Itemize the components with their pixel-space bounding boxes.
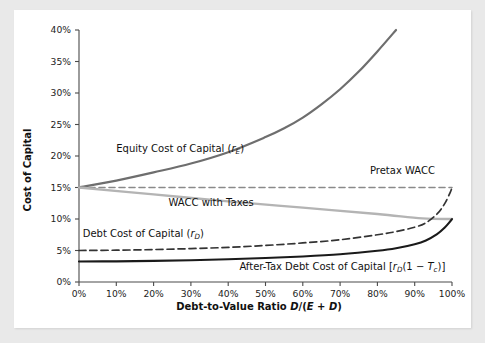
y-tick-label: 0%: [56, 276, 71, 287]
series-label-debt-cost: Debt Cost of Capital (rD): [83, 228, 204, 241]
x-axis-title-text: Debt-to-Value Ratio: [176, 301, 290, 312]
y-tick-label: 15%: [51, 182, 72, 193]
y-tick-label: 10%: [51, 213, 72, 224]
x-tick-label: 80%: [367, 288, 388, 299]
aftertax-label-close: )]: [438, 261, 446, 272]
x-tick-label: 20%: [143, 288, 164, 299]
x-axis-ticks: [79, 282, 452, 286]
x-axis-tick-labels: 0%10%20%30%40%50%60%70%80%90%100%: [72, 288, 466, 299]
x-tick-label: 70%: [330, 288, 351, 299]
cost-of-capital-chart: 0%5%10%15%20%25%30%35%40% 0%10%20%30%40%…: [14, 10, 471, 328]
figure-card: 0%5%10%15%20%25%30%35%40% 0%10%20%30%40%…: [14, 10, 471, 328]
series-curve: [79, 219, 452, 262]
y-axis-ticks: [75, 30, 79, 282]
x-axis-title-plus: +: [314, 301, 329, 312]
x-tick-label: 100%: [439, 288, 466, 299]
figure-frame: 0%5%10%15%20%25%30%35%40% 0%10%20%30%40%…: [0, 0, 485, 343]
y-tick-label: 35%: [51, 56, 72, 67]
equity-label-close: ): [240, 143, 244, 154]
y-tick-label: 30%: [51, 87, 72, 98]
x-tick-label: 30%: [181, 288, 202, 299]
x-tick-label: 10%: [106, 288, 127, 299]
x-axis-title-close: ): [337, 301, 342, 312]
series-label-after-tax-debt: After-Tax Debt Cost of Capital [rD(1 − T…: [239, 261, 445, 274]
x-tick-label: 90%: [404, 288, 425, 299]
aftertax-label-mid: (1 −: [402, 261, 427, 272]
aftertax-label-text: After-Tax Debt Cost of Capital [: [239, 261, 392, 272]
y-tick-label: 40%: [51, 24, 72, 35]
equity-label-text: Equity Cost of Capital (: [116, 143, 231, 154]
series-curve: [79, 188, 452, 220]
x-tick-label: 40%: [218, 288, 239, 299]
y-tick-label: 20%: [51, 150, 72, 161]
x-axis-title-slash: /(: [299, 301, 307, 312]
x-axis-title-d2: D: [329, 301, 337, 312]
x-tick-label: 50%: [255, 288, 276, 299]
x-tick-label: 0%: [72, 288, 87, 299]
x-axis-title-d: D: [290, 301, 298, 312]
debt-label-text: Debt Cost of Capital (: [83, 228, 191, 239]
series-curve: [79, 188, 452, 251]
series-curve: [79, 30, 396, 188]
series-label-wacc-with-taxes: WACC with Taxes: [169, 197, 254, 208]
x-axis-title: Debt-to-Value Ratio D/(E + D): [176, 301, 342, 312]
y-axis-title: Cost of Capital: [22, 129, 33, 212]
x-tick-label: 60%: [293, 288, 314, 299]
series-label-pretax-wacc: Pretax WACC: [370, 165, 435, 176]
y-axis-tick-labels: 0%5%10%15%20%25%30%35%40%: [51, 24, 72, 287]
y-tick-label: 25%: [51, 119, 72, 130]
debt-label-close: ): [200, 228, 204, 239]
y-tick-label: 5%: [56, 245, 71, 256]
